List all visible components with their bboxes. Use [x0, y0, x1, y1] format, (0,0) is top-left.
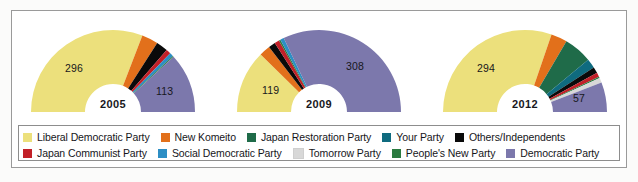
- year-label-2012: 2012: [425, 98, 625, 110]
- semicircle-chart-2009: 2009 119 308: [219, 12, 419, 120]
- legend: Liberal Democratic PartyNew KomeitoJapan…: [18, 125, 620, 161]
- value-label-2012-ldp: 294: [477, 62, 495, 74]
- value-label-2005-dpj: 113: [156, 85, 173, 97]
- legend-item-social-democratic-party[interactable]: Social Democratic Party: [158, 148, 282, 159]
- legend-label: Liberal Democratic Party: [37, 132, 150, 143]
- legend-item-japan-communist-party[interactable]: Japan Communist Party: [23, 148, 147, 159]
- legend-swatch-icon: [293, 148, 304, 159]
- chart-page: 2005 296 113 2009 119 308 2012 294 57 Li…: [0, 0, 638, 182]
- legend-row-1: Liberal Democratic PartyNew KomeitoJapan…: [23, 129, 615, 145]
- year-label-2005: 2005: [13, 98, 213, 110]
- value-label-2009-dpj: 308: [346, 60, 364, 72]
- legend-row-2: Japan Communist PartySocial Democratic P…: [23, 145, 615, 161]
- legend-item-liberal-democratic-party[interactable]: Liberal Democratic Party: [23, 132, 150, 143]
- legend-swatch-icon: [392, 149, 401, 158]
- year-label-2009: 2009: [219, 98, 419, 110]
- legend-label: People's New Party: [406, 148, 496, 159]
- legend-item-democratic-party[interactable]: Democratic Party: [506, 148, 599, 159]
- legend-swatch-icon: [455, 133, 464, 142]
- legend-swatch-icon: [23, 133, 32, 142]
- value-label-2012-dpj: 57: [573, 92, 585, 104]
- legend-label: Others/Independents: [469, 132, 565, 143]
- legend-swatch-icon: [158, 149, 167, 158]
- legend-label: Tomorrow Party: [309, 148, 381, 159]
- legend-swatch-icon: [161, 133, 170, 142]
- legend-item-your-party[interactable]: Your Party: [382, 132, 444, 143]
- legend-label: Democratic Party: [520, 148, 599, 159]
- legend-label: Japan Communist Party: [37, 148, 147, 159]
- legend-swatch-icon: [382, 133, 391, 142]
- legend-item-people-s-new-party[interactable]: People's New Party: [392, 148, 496, 159]
- semicircle-chart-group: 2005 296 113 2009 119 308 2012 294 57: [13, 12, 625, 124]
- legend-item-new-komeito[interactable]: New Komeito: [161, 132, 236, 143]
- legend-swatch-icon: [506, 149, 515, 158]
- legend-swatch-icon: [247, 133, 256, 142]
- value-label-2009-ldp: 119: [262, 84, 279, 96]
- legend-label: New Komeito: [175, 132, 236, 143]
- legend-label: Social Democratic Party: [172, 148, 282, 159]
- legend-label: Japan Restoration Party: [261, 132, 371, 143]
- legend-swatch-icon: [23, 149, 32, 158]
- legend-item-japan-restoration-party[interactable]: Japan Restoration Party: [247, 132, 371, 143]
- legend-item-tomorrow-party[interactable]: Tomorrow Party: [293, 148, 381, 159]
- semicircle-chart-2005: 2005 296 113: [13, 12, 213, 120]
- legend-label: Your Party: [396, 132, 444, 143]
- value-label-2005-ldp: 296: [65, 62, 83, 74]
- semicircle-chart-2012: 2012 294 57: [425, 12, 625, 120]
- legend-item-others-independents[interactable]: Others/Independents: [455, 132, 565, 143]
